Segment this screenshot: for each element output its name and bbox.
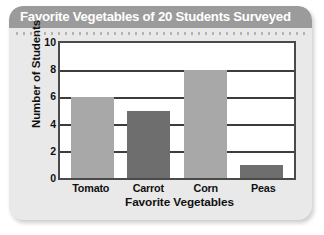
x-tick-peas: Peas xyxy=(235,182,293,194)
bar-group xyxy=(60,43,294,178)
bar-tomato xyxy=(71,97,114,178)
plot-area xyxy=(58,41,296,180)
x-tick-corn: Corn xyxy=(177,182,235,194)
dotted-divider xyxy=(16,31,306,35)
bar-slot-carrot xyxy=(121,43,178,178)
bar-corn xyxy=(184,70,227,178)
bar-carrot xyxy=(127,111,170,179)
bar-slot-peas xyxy=(234,43,291,178)
y-tick-6: 6 xyxy=(36,91,56,101)
y-tick-0: 0 xyxy=(36,173,56,183)
y-tick-2: 2 xyxy=(36,146,56,156)
plot-inner xyxy=(60,43,294,178)
chart-screenshot: Favorite Vegetables of 20 Students Surve… xyxy=(0,0,324,235)
chart-card: Favorite Vegetables of 20 Students Surve… xyxy=(9,6,312,220)
bar-slot-tomato xyxy=(64,43,121,178)
bar-slot-corn xyxy=(177,43,234,178)
x-axis-tick-labels: Tomato Carrot Corn Peas xyxy=(58,182,296,194)
chart-title: Favorite Vegetables of 20 Students Surve… xyxy=(20,9,310,25)
x-tick-carrot: Carrot xyxy=(120,182,178,194)
y-tick-10: 10 xyxy=(36,37,56,47)
bar-peas xyxy=(240,165,283,179)
y-tick-4: 4 xyxy=(36,119,56,129)
y-axis-title: Number of Students xyxy=(30,14,42,134)
chart-title-bar: Favorite Vegetables of 20 Students Surve… xyxy=(9,6,312,28)
y-tick-8: 8 xyxy=(36,64,56,74)
x-axis-title: Favorite Vegetables xyxy=(57,195,302,209)
x-tick-tomato: Tomato xyxy=(62,182,120,194)
